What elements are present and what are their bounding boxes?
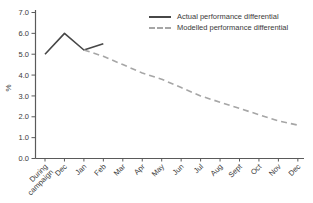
x-tick-label: Jul [192,162,205,175]
y-tick-label: 4.0 [19,71,29,80]
x-tick-label: Aug [209,162,225,178]
y-tick-label: 1.0 [19,133,29,142]
y-tick-label: 3.0 [19,92,29,101]
y-tick-label: 7.0 [19,8,29,17]
modelled-series-line [84,50,298,125]
y-axis-label: % [4,84,13,91]
legend-item-actual: Actual performance differential [149,11,288,22]
x-tick-label: Nov [267,162,283,178]
x-tick-label: Sept [227,161,245,179]
x-tick-label: Mar [112,162,128,178]
legend-label-modelled: Modelled performance differential [177,22,288,33]
x-tick-label: Jan [73,162,88,177]
x-tick-label: Apr [132,162,147,177]
x-tick-label: Dec [53,162,69,178]
solid-line-swatch [149,16,171,18]
series-lines [45,33,298,125]
legend-label-actual: Actual performance differential [177,11,279,22]
y-tick-label: 0.0 [19,154,29,163]
x-tick-label: Duringcampaign [20,162,55,197]
x-tick-label: Feb [92,162,108,178]
x-tick-label: Dec [286,162,302,178]
dashed-line-swatch [149,27,171,29]
actual-series-line [45,33,103,54]
y-tick-label: 2.0 [19,112,29,121]
y-tick-label: 6.0 [19,29,29,38]
x-tick-label: Oct [249,161,264,176]
legend-item-modelled: Modelled performance differential [149,22,288,33]
x-tick-label: May [150,162,167,179]
chart-panel: 0.01.02.03.04.05.06.07.0DuringcampaignDe… [0,0,313,203]
x-tick-label: Jun [171,162,186,177]
y-tick-label: 5.0 [19,50,29,59]
legend: Actual performance differential Modelled… [149,11,288,33]
